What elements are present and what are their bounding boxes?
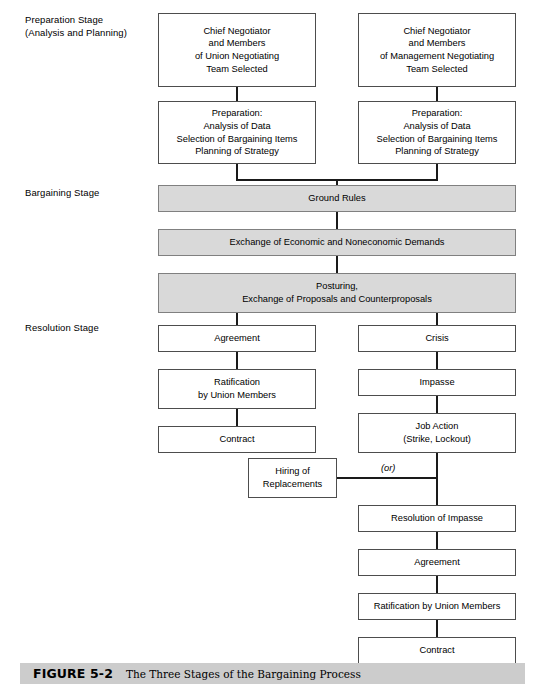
connector-impasse-to-job-action <box>436 396 438 413</box>
node-agreement-left: Agreement <box>158 325 316 352</box>
node-ground-rules: Ground Rules <box>158 185 516 212</box>
node-resolution-of-impasse: Resolution of Impasse <box>358 505 516 532</box>
figure-number: FIGURE 5-2 <box>33 666 113 681</box>
connector-ratification-to-contract-right <box>436 620 438 637</box>
connector-agreement-to-ratification-right <box>436 576 438 593</box>
figure-title: The Three Stages of the Bargaining Proce… <box>126 668 361 680</box>
figure-flowchart: Preparation Stage (Analysis and Planning… <box>0 0 537 695</box>
node-ratification-right: Ratification by Union Members <box>358 593 516 620</box>
node-contract-left: Contract <box>158 426 316 453</box>
stage-label-resolution: Resolution Stage <box>25 322 99 335</box>
node-impasse: Impasse <box>358 369 516 396</box>
node-crisis: Crisis <box>358 325 516 352</box>
connector-posturing-to-agreement <box>236 313 238 325</box>
connector-demands-to-posturing <box>336 256 338 273</box>
connector-label-or: (or) <box>381 463 395 474</box>
connector-resolution-to-agreement-right <box>436 532 438 549</box>
connector-job-action-down <box>436 453 438 505</box>
figure-caption-bar: FIGURE 5-2 The Three Stages of the Barga… <box>20 663 525 684</box>
node-union-preparation: Preparation: Analysis of Data Selection … <box>158 101 316 164</box>
node-management-preparation: Preparation: Analysis of Data Selection … <box>358 101 516 164</box>
node-exchange-of-demands: Exchange of Economic and Noneconomic Dem… <box>158 229 516 256</box>
node-hiring-of-replacements: Hiring of Replacements <box>248 458 337 498</box>
node-management-negotiating-team: Chief Negotiator and Members of Manageme… <box>358 13 516 87</box>
connector-management-team-to-preparation <box>436 87 438 101</box>
connector-hiring-replacements-to-trunk <box>337 477 437 479</box>
connector-union-team-to-preparation <box>236 87 238 101</box>
node-union-negotiating-team: Chief Negotiator and Members of Union Ne… <box>158 13 316 87</box>
node-ratification-left: Ratification by Union Members <box>158 369 316 409</box>
node-job-action: Job Action (Strike, Lockout) <box>358 413 516 453</box>
connector-crisis-to-impasse <box>436 352 438 369</box>
stage-label-bargaining: Bargaining Stage <box>25 187 99 200</box>
connector-agreement-to-ratification-left <box>236 352 238 369</box>
connector-ground-rules-to-demands <box>336 212 338 229</box>
connector-ratification-to-contract-left <box>236 409 238 426</box>
connector-posturing-to-crisis <box>436 313 438 325</box>
node-agreement-right: Agreement <box>358 549 516 576</box>
node-posturing: Posturing, Exchange of Proposals and Cou… <box>158 273 516 313</box>
node-contract-right: Contract <box>358 637 516 664</box>
stage-label-preparation: Preparation Stage (Analysis and Planning… <box>25 14 127 39</box>
